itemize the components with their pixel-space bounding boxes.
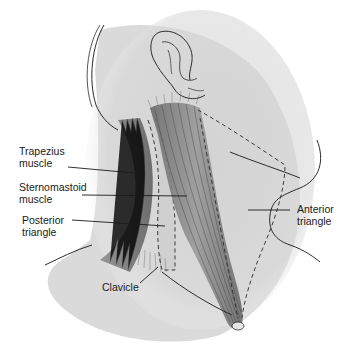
label-posterior-triangle: Posterior triangle <box>22 214 64 238</box>
label-trapezius-muscle: Trapezius muscle <box>19 145 65 169</box>
neck-anatomy-diagram: Trapezius muscle Sternomastoid muscle Po… <box>0 0 354 350</box>
label-anterior-triangle: Anterior triangle <box>297 203 334 227</box>
neck-illustration <box>0 0 354 350</box>
label-sternomastoid-muscle: Sternomastoid muscle <box>19 181 87 205</box>
label-clavicle: Clavicle <box>102 281 139 293</box>
